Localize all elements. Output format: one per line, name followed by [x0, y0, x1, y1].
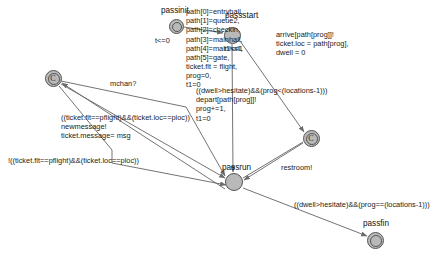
edge-label-newmessage: ((ticket.flt==pflight)&&(ticket.loc==plo…: [61, 113, 190, 141]
edge-label-init-assignments: path[0]=entryhall, path[1]=queue2, path[…: [186, 7, 243, 90]
committed-marker-right: C: [304, 135, 319, 143]
invariant-passinit: t<=0: [155, 37, 170, 46]
node-passfin[interactable]: [367, 232, 384, 249]
committed-marker-left: C: [46, 75, 61, 83]
edge-passrun-commit2: [243, 142, 303, 178]
node-passinit-initial-ring: [172, 22, 182, 32]
node-label-passinit: passinit: [161, 6, 189, 15]
edge-commit2-passrun: [244, 143, 303, 180]
automaton-diagram-canvas: passinit t<=0 passstart t1<=1 C C passru…: [0, 0, 436, 262]
node-committed-right[interactable]: C: [303, 130, 320, 147]
edge-passrun-passfin: [243, 188, 367, 236]
edge-label-nomessage: !((ticket.flt==pflight)&&(ticket.loc==pl…: [8, 156, 139, 165]
edge-label-restroom: restroom!: [281, 163, 312, 172]
edge-label-depart: ((dwell>hesitate)&&(prog<(locations-1)))…: [196, 86, 327, 123]
node-passrun[interactable]: [225, 173, 243, 191]
edge-label-finish: ((dwell>hesitate)&&(prog==(locations-1))…: [294, 200, 430, 209]
edge-label-mchan: mchan?: [110, 79, 136, 88]
node-label-passrun: passrun: [222, 163, 251, 172]
node-label-passfin: passfin: [363, 219, 389, 228]
node-passfin-ring: [370, 235, 382, 247]
node-committed-left[interactable]: C: [45, 70, 62, 87]
edge-label-arrive: arrive[path[prog]]! ticket.loc = path[pr…: [276, 30, 349, 58]
node-passinit[interactable]: [169, 19, 184, 34]
